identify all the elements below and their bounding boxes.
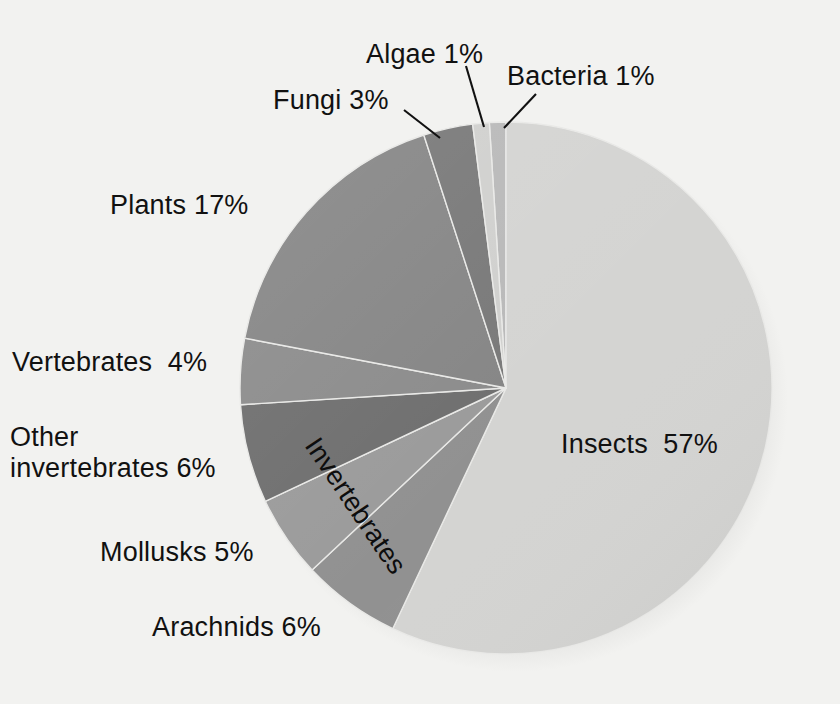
slice-label-algae: Algae 1% xyxy=(366,39,483,70)
slice-label-other-invertebrates-line1: Other xyxy=(10,422,79,453)
slice-label-insects: Insects 57% xyxy=(561,429,718,460)
slice-label-plants: Plants 17% xyxy=(110,190,249,221)
pie-chart: Algae 1% Bacteria 1% Fungi 3% Plants 17%… xyxy=(0,0,840,704)
pie-slices-group xyxy=(240,122,772,654)
leader-line-algae xyxy=(466,66,484,127)
slice-label-fungi: Fungi 3% xyxy=(273,85,389,116)
leader-line-fungi xyxy=(404,110,440,138)
slice-label-mollusks: Mollusks 5% xyxy=(100,537,254,568)
slice-label-other-invertebrates-line2: invertebrates 6% xyxy=(10,453,216,484)
slice-label-vertebrates: Vertebrates 4% xyxy=(12,347,207,378)
slice-label-arachnids: Arachnids 6% xyxy=(152,612,321,643)
slice-label-bacteria: Bacteria 1% xyxy=(507,61,655,92)
